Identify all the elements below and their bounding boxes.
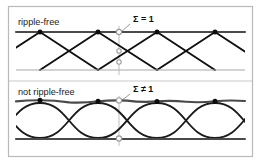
panel-bottom-crossing-marker [116,98,121,103]
panel-bottom-sample-dot [213,99,218,104]
panel-top-title: ripple-free [18,17,59,27]
panel-top-sample-dot [155,30,160,35]
panel-top-crossing-marker [116,29,121,34]
panel-top-sum-annotation: Σ = 1 [133,14,154,24]
panel-top-sample-dot [96,30,101,35]
panel-bottom-sample-dot [38,98,43,103]
panel-top-sample-dot [213,30,218,35]
figure-container: ripple-free Σ = 1 [0,0,261,166]
panel-bottom-sample-dot [96,99,101,104]
panel-bottom-sum-annotation: Σ ≠ 1 [133,84,153,94]
panel-bottom-crossing-marker [116,136,121,141]
panel-top-sample-dot [38,30,43,35]
panel-bottom-title: not ripple-free [18,87,75,97]
figure-svg: ripple-free Σ = 1 [0,0,261,166]
panel-bottom-sample-dot [155,99,160,104]
panel-top-crossing-marker [117,49,121,53]
panel-top-crossing-marker [117,60,121,64]
